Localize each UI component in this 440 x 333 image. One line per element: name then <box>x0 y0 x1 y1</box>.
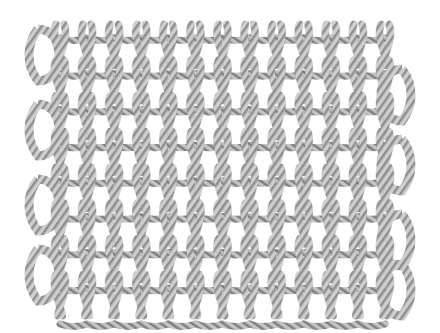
rope-mesh-illustration <box>0 0 440 333</box>
knitted-rope-image <box>0 0 440 333</box>
vertical-cords <box>54 24 390 316</box>
